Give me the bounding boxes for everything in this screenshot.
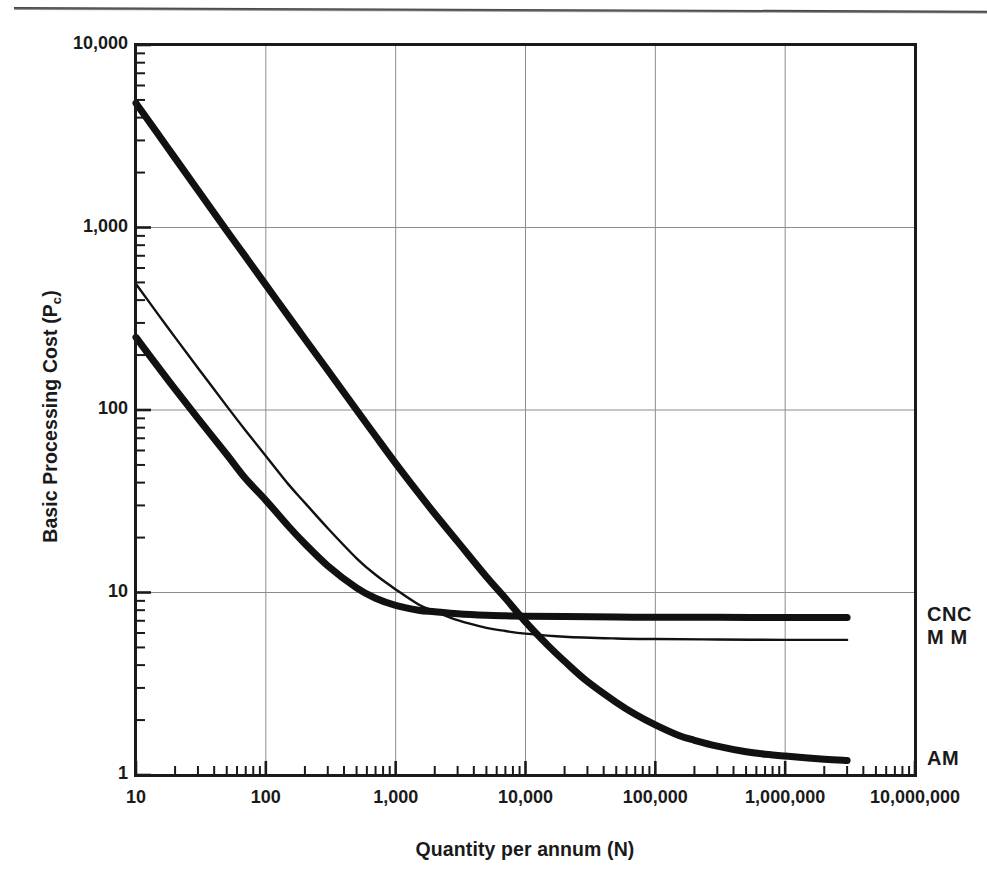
series-line-cnc xyxy=(136,337,847,617)
gridlines-group xyxy=(136,45,915,775)
y-tick-label: 1 xyxy=(8,763,128,784)
chart-plot-svg xyxy=(0,0,987,886)
y-tick-label: 1,000 xyxy=(8,216,128,237)
y-axis-title: Basic Processing Cost (Pc) xyxy=(39,207,62,627)
x-axis-title: Quantity per annum (N) xyxy=(135,838,915,861)
y-tick-label: 100 xyxy=(8,398,128,419)
series-paths-group xyxy=(136,103,847,760)
y-tick-label: 10 xyxy=(8,581,128,602)
series-label-am: AM xyxy=(927,747,959,770)
x-tick-label: 10,000,000 xyxy=(830,787,987,808)
series-line-am xyxy=(136,103,847,760)
y-axis-title-main: Basic Processing Cost (P xyxy=(39,304,61,543)
y-axis-title-subscript: c xyxy=(49,297,64,304)
series-label-mm: M M xyxy=(927,626,968,649)
y-axis-tick-label-group: 10,0001,000100101 xyxy=(0,0,128,886)
series-label-cnc: CNC xyxy=(927,603,972,626)
chart-figure: 10,0001,000100101 101001,00010,000100,00… xyxy=(0,0,987,886)
minor-ticks-group xyxy=(136,53,909,775)
y-tick-label: 10,000 xyxy=(8,33,128,54)
